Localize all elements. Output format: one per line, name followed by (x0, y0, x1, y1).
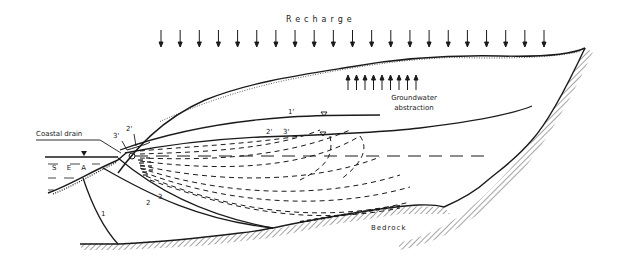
recharge-arrows (159, 30, 546, 47)
sea-floor (48, 153, 126, 193)
right-bedrock-wall-hatch (398, 48, 593, 250)
curve-label-1: 1 (101, 211, 105, 218)
abstraction-arrows (346, 75, 418, 90)
curve-label-2p: 2' (266, 129, 272, 136)
water-table-2p-3p (125, 106, 532, 153)
curve-label-2p-drain: 2' (126, 126, 132, 133)
coastal-drain-label: Coastal drain (36, 131, 82, 138)
curve-label-1p: 1' (288, 109, 294, 116)
recharge-label: Recharge (286, 16, 356, 24)
sea-level-marker (81, 151, 87, 156)
cross-section-diagram (0, 0, 623, 272)
sea-label: S E A (52, 165, 90, 172)
curve-label-3: 3 (158, 194, 162, 201)
ground-surface (118, 48, 585, 173)
right-bedrock-wall (444, 48, 585, 207)
curve-label-3p: 3' (283, 129, 289, 136)
curve-label-2: 2 (146, 200, 150, 207)
abstraction-label-line1: Groundwater (378, 95, 450, 102)
water-table-1p (120, 115, 380, 150)
flow-lines (140, 130, 410, 216)
abstraction-label-line2: abstraction (378, 105, 450, 112)
curve-label-3p-drain: 3' (113, 133, 119, 140)
bedrock-label: Bedrock (371, 225, 406, 232)
interface-curve-2 (103, 168, 273, 228)
